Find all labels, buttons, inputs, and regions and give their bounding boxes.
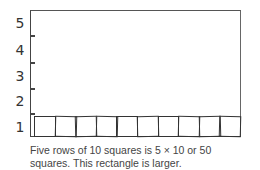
unit-square xyxy=(96,116,118,138)
square-row xyxy=(34,116,240,137)
caption: Five rows of 10 squares is 5 × 10 or 50 … xyxy=(30,144,258,170)
unit-square xyxy=(116,116,138,137)
unit-square xyxy=(54,116,76,138)
unit-square xyxy=(219,116,241,138)
unit-square xyxy=(198,116,220,138)
caption-line-2: squares. This rectangle is larger. xyxy=(30,157,258,170)
unit-square xyxy=(178,116,200,138)
y-label-1: 1 xyxy=(14,120,26,134)
y-label-5: 5 xyxy=(14,16,26,30)
tick-mark xyxy=(30,62,35,64)
unit-square xyxy=(75,116,97,138)
y-label-3: 3 xyxy=(14,69,26,83)
tick-mark xyxy=(30,35,35,37)
tick-mark xyxy=(30,88,35,90)
unit-square xyxy=(158,116,180,137)
unit-square xyxy=(34,116,56,137)
y-label-4: 4 xyxy=(14,43,26,57)
unit-square xyxy=(137,116,159,138)
y-label-2: 2 xyxy=(14,94,26,108)
caption-line-1: Five rows of 10 squares is 5 × 10 or 50 xyxy=(30,144,258,157)
tick-mark xyxy=(30,113,35,115)
